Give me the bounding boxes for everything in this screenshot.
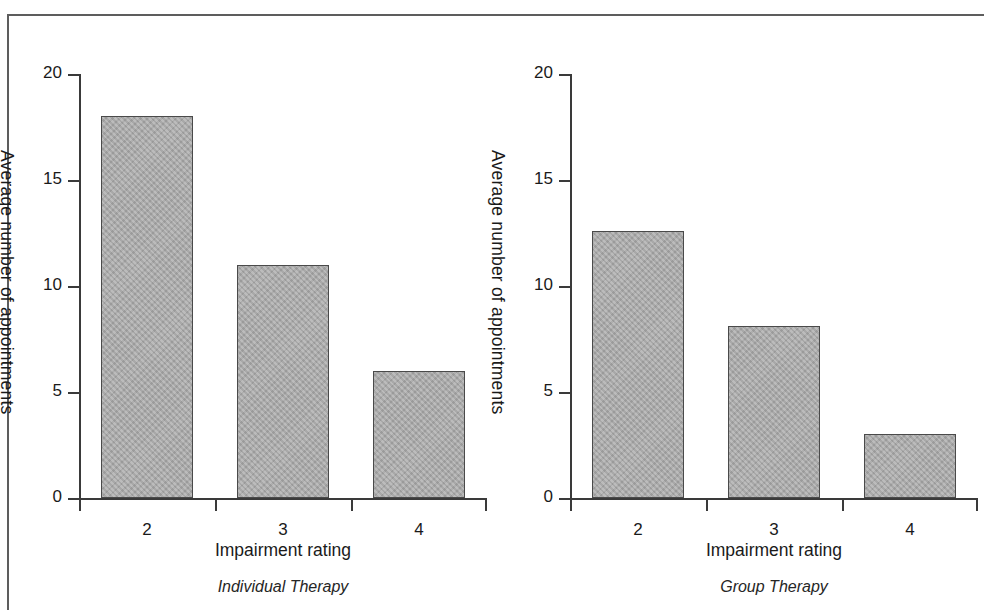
x-tick-label-2: 2 <box>608 520 668 540</box>
y-axis-label: Average number of appointments <box>0 150 17 460</box>
y-tick-label-0: 0 <box>544 487 553 507</box>
bar-individual-3 <box>237 265 329 498</box>
x-tick-div-1 <box>706 500 708 511</box>
bar-group-4 <box>864 434 956 498</box>
y-tick-label-20: 20 <box>43 63 62 83</box>
y-axis-line <box>570 74 572 500</box>
y-tick-20: 20 <box>559 74 570 76</box>
y-tick-label-5: 5 <box>544 381 553 401</box>
x-tick-label-3: 3 <box>253 520 313 540</box>
chart-panel-group-therapy: Average number of appointments 0 5 10 15… <box>500 0 991 610</box>
y-tick-0: 0 <box>68 498 79 500</box>
bar-individual-4 <box>373 371 465 498</box>
x-tick-label-2: 2 <box>117 520 177 540</box>
y-tick-5: 5 <box>559 392 570 394</box>
y-axis-label: Average number of appointments <box>486 150 508 460</box>
x-tick-label-4: 4 <box>880 520 940 540</box>
y-tick-15: 15 <box>559 180 570 182</box>
y-tick-label-20: 20 <box>534 63 553 83</box>
x-axis-line <box>79 498 487 500</box>
plot-area-group-therapy: 0 5 10 15 20 2 3 4 <box>570 74 978 498</box>
x-tick-end <box>485 500 487 511</box>
chart-panels: Average number of appointments 0 5 10 15… <box>0 0 991 610</box>
y-tick-label-15: 15 <box>43 169 62 189</box>
y-tick-10: 10 <box>68 286 79 288</box>
y-tick-label-0: 0 <box>53 487 62 507</box>
x-axis-label: Impairment rating <box>79 540 487 561</box>
chart-panel-individual-therapy: Average number of appointments 0 5 10 15… <box>9 0 500 610</box>
x-tick-div-2 <box>351 500 353 511</box>
bar-group-3 <box>728 326 820 498</box>
x-tick-end <box>976 500 978 511</box>
x-tick-start <box>570 500 572 511</box>
y-tick-label-15: 15 <box>534 169 553 189</box>
y-tick-15: 15 <box>68 180 79 182</box>
bar-group-2 <box>592 231 684 498</box>
y-tick-label-5: 5 <box>53 381 62 401</box>
y-tick-0: 0 <box>559 498 570 500</box>
y-tick-10: 10 <box>559 286 570 288</box>
x-tick-div-2 <box>842 500 844 511</box>
panel-caption-group-therapy: Group Therapy <box>570 578 978 596</box>
y-tick-label-10: 10 <box>534 275 553 295</box>
x-axis-label: Impairment rating <box>570 540 978 561</box>
x-tick-label-3: 3 <box>744 520 804 540</box>
x-tick-div-1 <box>215 500 217 511</box>
bar-individual-2 <box>101 116 193 498</box>
y-tick-5: 5 <box>68 392 79 394</box>
x-tick-start <box>79 500 81 511</box>
x-tick-label-4: 4 <box>389 520 449 540</box>
y-tick-label-10: 10 <box>43 275 62 295</box>
plot-area-individual-therapy: 0 5 10 15 20 2 3 4 <box>79 74 487 498</box>
panel-caption-individual-therapy: Individual Therapy <box>79 578 487 596</box>
y-axis-line <box>79 74 81 500</box>
y-tick-20: 20 <box>68 74 79 76</box>
x-axis-line <box>570 498 978 500</box>
